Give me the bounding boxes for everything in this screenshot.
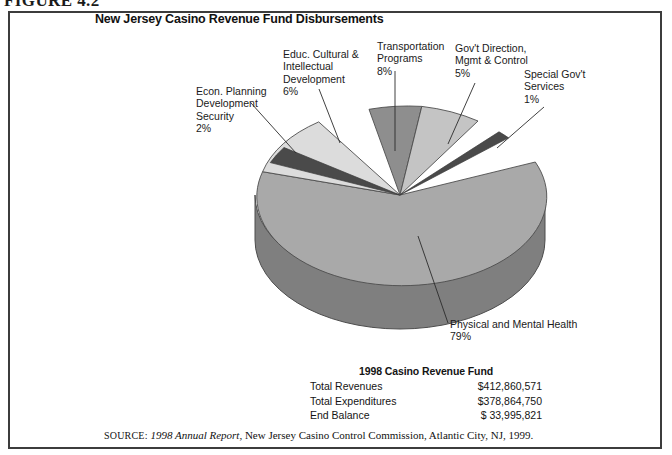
figure-number: FIGURE 4.2 (4, 0, 100, 11)
slice-label-transportation: Transportation Programs 8% (377, 40, 444, 77)
source-label: SOURCE: (104, 430, 148, 441)
slice-label-educ-cultural: Educ. Cultural & Intellectual Developmen… (283, 48, 359, 97)
slice-label-physical-mental-health: Physical and Mental Health 79% (450, 318, 577, 343)
slice-label-econ-planning: Econ. Planning Development Security 2% (196, 85, 267, 134)
slice-label-special-govt-services: Special Gov't Services 1% (524, 68, 586, 105)
slice-label-govt-direction: Gov't Direction, Mgmt & Control 5% (455, 42, 528, 79)
source-report-title: 1998 Annual Report, (150, 429, 242, 441)
fund-row-label: Total Expenditures (310, 395, 443, 410)
table-row: End Balance $ 33,995,821 (310, 409, 542, 424)
table-row: Total Expenditures $378,864,750 (310, 395, 542, 410)
source-line: SOURCE: 1998 Annual Report, New Jersey C… (104, 429, 533, 441)
fund-row-amount: $ 33,995,821 (443, 409, 542, 424)
leader-line-special (497, 107, 544, 148)
source-rest: New Jersey Casino Control Commission, At… (242, 429, 533, 441)
pie-top-face (257, 106, 547, 286)
fund-row-amount: $378,864,750 (443, 395, 542, 410)
fund-table-title: 1998 Casino Revenue Fund (310, 365, 542, 377)
figure-page: FIGURE 4.2 New Jersey Casino Revenue Fun… (0, 0, 672, 455)
table-row: Total Revenues $412,860,571 (310, 380, 542, 395)
fund-row-label: Total Revenues (310, 380, 443, 395)
fund-summary-table: 1998 Casino Revenue Fund Total Revenues … (310, 365, 542, 424)
fund-table-grid: Total Revenues $412,860,571 Total Expend… (310, 380, 542, 424)
fund-row-amount: $412,860,571 (443, 380, 542, 395)
fund-row-label: End Balance (310, 409, 443, 424)
